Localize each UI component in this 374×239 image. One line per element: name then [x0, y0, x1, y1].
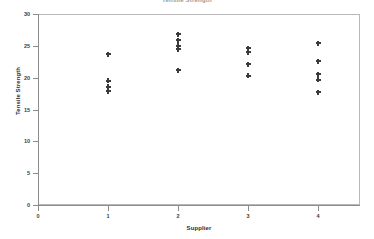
- data-point: [106, 78, 111, 83]
- y-axis-title: Tensile Strength: [15, 36, 21, 146]
- scatter-chart: Tensile Strength 051015202530 01234 Tens…: [0, 0, 374, 239]
- x-axis-tick-label: 4: [306, 213, 330, 220]
- x-axis-tick: [318, 206, 319, 211]
- data-point: [316, 90, 321, 95]
- data-point: [176, 32, 181, 37]
- chart-title: Tensile Strength: [0, 0, 374, 4]
- x-axis-tick-label: 0: [26, 213, 50, 220]
- y-axis-tick: [33, 14, 38, 15]
- x-axis-tick: [108, 206, 109, 211]
- data-point: [176, 68, 181, 73]
- x-axis-tick: [178, 206, 179, 211]
- x-axis-line: [38, 205, 360, 206]
- y-axis-tick: [33, 173, 38, 174]
- data-point: [106, 52, 111, 57]
- y-axis-tick: [33, 141, 38, 142]
- y-axis-tick-label: 5: [8, 170, 30, 176]
- y-axis-tick-label: 0: [8, 202, 30, 208]
- x-axis-tick-label: 1: [96, 213, 120, 220]
- data-point: [176, 47, 181, 52]
- plot-area: [38, 14, 360, 205]
- x-axis-tick-label: 2: [166, 213, 190, 220]
- y-axis-tick: [33, 78, 38, 79]
- data-point: [176, 38, 181, 43]
- data-point: [316, 41, 321, 46]
- y-axis-line: [38, 14, 39, 206]
- data-point: [246, 62, 251, 67]
- data-point: [316, 59, 321, 64]
- x-axis-title: Supplier: [38, 225, 360, 231]
- y-axis-tick: [33, 110, 38, 111]
- data-point: [316, 77, 321, 82]
- y-axis-tick: [33, 46, 38, 47]
- data-point: [246, 50, 251, 55]
- data-point: [106, 89, 111, 94]
- data-point: [246, 73, 251, 78]
- x-axis-tick-label: 3: [236, 213, 260, 220]
- x-axis-tick: [248, 206, 249, 211]
- y-axis-tick-label: 30: [8, 11, 30, 17]
- x-axis-tick: [38, 206, 39, 211]
